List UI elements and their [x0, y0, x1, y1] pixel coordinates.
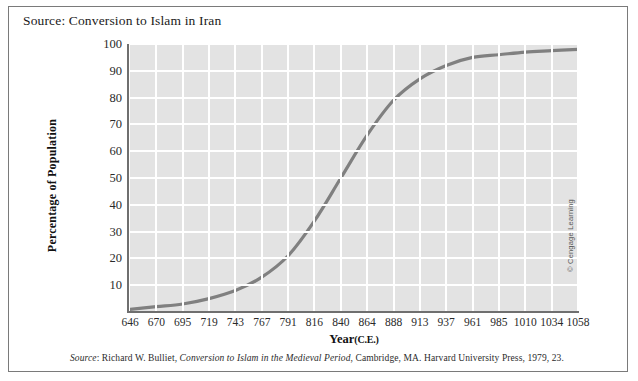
- figure-title: Source: Conversion to Islam in Iran: [23, 13, 221, 29]
- figure-frame: Source: Conversion to Islam in Iran: [8, 6, 628, 372]
